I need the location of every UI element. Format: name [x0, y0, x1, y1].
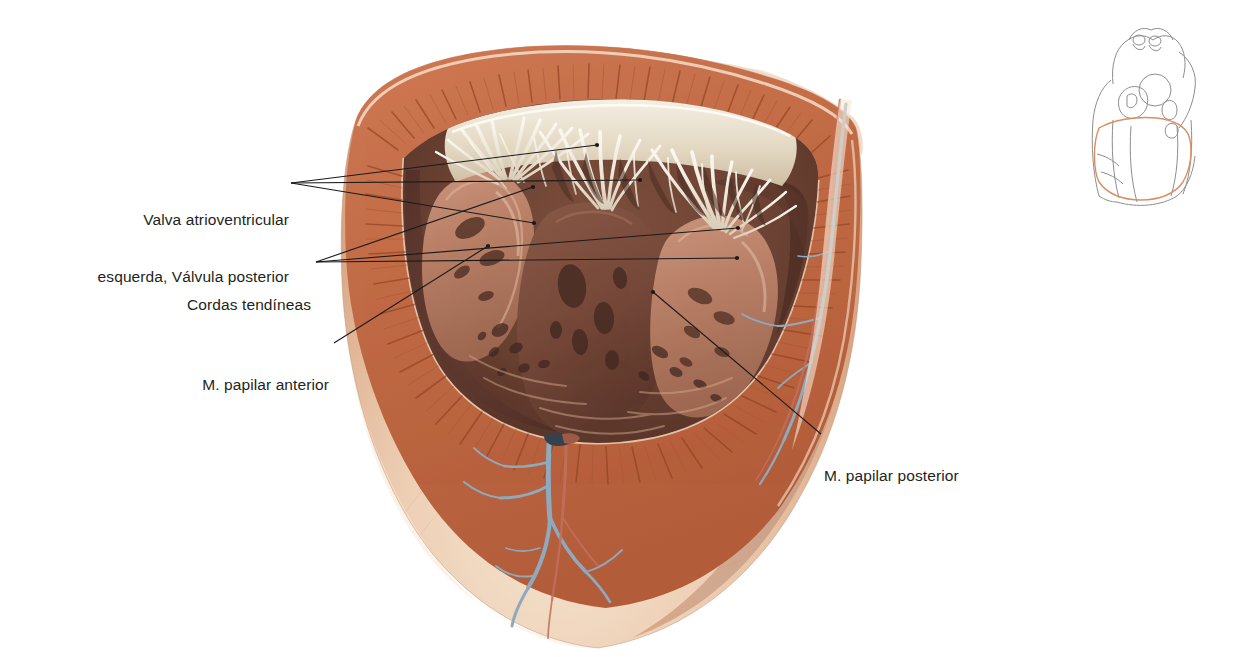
orientation-heart-thumbnail: [0, 0, 1235, 657]
figure-canvas: Valva atrioventricular esquerda, Válvula…: [0, 0, 1235, 657]
